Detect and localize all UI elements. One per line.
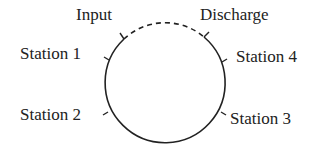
label-input: Input: [76, 6, 112, 23]
tick-discharge: [204, 32, 209, 37]
tick-input: [120, 33, 124, 39]
loop-dashed-arc: [124, 23, 204, 39]
label-station2: Station 2: [20, 106, 81, 123]
tick-station4: [222, 59, 227, 62]
label-discharge: Discharge: [200, 6, 269, 23]
tick-station1: [104, 57, 109, 60]
loop-solid-arc: [105, 37, 225, 143]
tick-station2: [103, 112, 108, 115]
tick-station3: [221, 112, 226, 115]
label-station4: Station 4: [236, 48, 297, 65]
label-station1: Station 1: [20, 45, 81, 62]
label-station3: Station 3: [230, 110, 291, 127]
